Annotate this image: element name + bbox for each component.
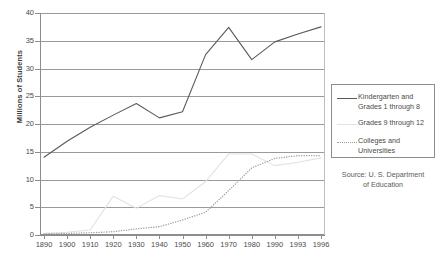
y-axis-tick-label: 40 [4, 8, 34, 17]
series-line [44, 27, 321, 157]
gridline [40, 235, 325, 236]
source-line-1: Source: U. S. Department [342, 170, 424, 179]
chart-figure: Millions of Students 0510152025303540 18… [0, 0, 437, 261]
series-lines [40, 13, 325, 235]
legend-label-line-1: Grades 9 through 12 [358, 118, 424, 127]
legend-box: Kindergarten and Grades 1 through 8 Grad… [331, 84, 435, 158]
y-axis-tick-label: 10 [4, 175, 34, 184]
y-axis-tick-label: 25 [4, 91, 34, 100]
y-axis-tick-label: 35 [4, 36, 34, 45]
legend-item-kindergarten-grades-1-8[interactable]: Kindergarten and Grades 1 through 8 [336, 92, 434, 111]
legend-label-line-1: Colleges and [358, 136, 400, 145]
solid-light-line-icon [336, 120, 358, 129]
legend-item-label: Kindergarten and Grades 1 through 8 [358, 92, 420, 111]
plot-area [40, 13, 325, 235]
legend-item-label: Colleges and Universities [358, 136, 400, 155]
legend-item-colleges-universities[interactable]: Colleges and Universities [336, 136, 434, 155]
dotted-line-icon [336, 138, 358, 147]
legend-item-label: Grades 9 through 12 [358, 118, 424, 128]
y-axis-tick-label: 20 [4, 119, 34, 128]
y-axis-tick-label: 5 [4, 202, 34, 211]
y-axis-tick-label: 30 [4, 64, 34, 73]
legend-label-line-1: Kindergarten and [358, 92, 413, 101]
y-axis-tick-label: 0 [4, 230, 34, 239]
legend-item-grades-9-12[interactable]: Grades 9 through 12 [336, 118, 434, 129]
y-axis-tick-label: 15 [4, 147, 34, 156]
source-note: Source: U. S. Department of Education [331, 170, 435, 189]
source-line-2: of Education [363, 180, 403, 189]
solid-dark-line-icon [336, 94, 358, 103]
series-line [44, 156, 321, 234]
series-line [44, 154, 321, 233]
legend-label-line-2: Grades 1 through 8 [358, 102, 420, 111]
legend-label-line-2: Universities [358, 146, 395, 155]
y-axis-title: Millions of Students [15, 42, 24, 132]
x-axis-tick-label: 1996 [301, 240, 341, 249]
